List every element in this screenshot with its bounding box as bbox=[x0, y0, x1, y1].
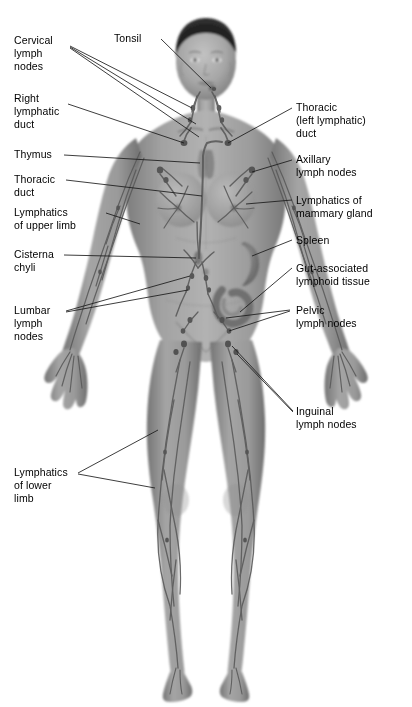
label-spleen: Spleen bbox=[296, 234, 329, 247]
label-lumbar-lymph-nodes: Lumbar lymph nodes bbox=[14, 304, 50, 344]
label-inguinal-lymph-nodes: Inguinal lymph nodes bbox=[296, 405, 357, 431]
label-right-lymphatic-duct: Right lymphatic duct bbox=[14, 92, 59, 132]
label-pelvic-lymph-nodes: Pelvic lymph nodes bbox=[296, 304, 357, 330]
label-tonsil: Tonsil bbox=[114, 32, 141, 45]
lymphatic-system-figure: Cervical lymph nodes Right lymphatic duc… bbox=[0, 0, 412, 707]
label-thoracic-duct: Thoracic duct bbox=[14, 173, 55, 199]
label-thoracic-left-lymphatic-duct: Thoracic (left lymphatic) duct bbox=[296, 101, 366, 141]
label-gut-associated-lymphoid-tissue: Gut-associated lymphoid tissue bbox=[296, 262, 370, 288]
label-cervical-lymph-nodes: Cervical lymph nodes bbox=[14, 34, 53, 74]
thymus-organ bbox=[198, 150, 215, 179]
label-lymphatics-upper-limb: Lymphatics of upper limb bbox=[14, 206, 76, 232]
label-lymphatics-lower-limb: Lymphatics of lower limb bbox=[14, 466, 68, 506]
label-axillary-lymph-nodes: Axillary lymph nodes bbox=[296, 153, 357, 179]
label-lymphatics-mammary-gland: Lymphatics of mammary gland bbox=[296, 194, 373, 220]
label-thymus: Thymus bbox=[14, 148, 52, 161]
label-cisterna-chyli: Cisterna chyli bbox=[14, 248, 54, 274]
